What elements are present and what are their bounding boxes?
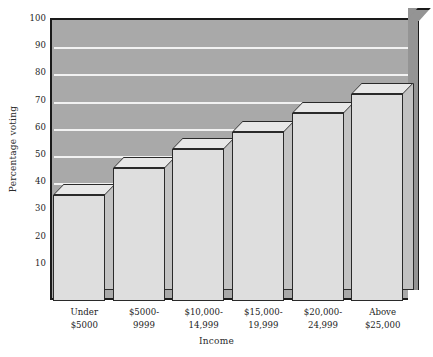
bar-top-4 [232, 121, 295, 132]
bar-face-5 [292, 113, 344, 301]
x-axis-label-line1: $20,000- [304, 307, 342, 317]
bar-face-4 [232, 132, 284, 301]
bar-top-2 [113, 157, 176, 168]
x-axis-title: Income [0, 336, 433, 346]
bar-face-3 [172, 149, 224, 301]
bar-face-2 [113, 168, 165, 301]
bar-chart: Percentage voting 102030405060708090100 … [0, 0, 433, 357]
x-axis-label-line2: $25,000 [346, 319, 420, 332]
bar-series [0, 0, 433, 357]
x-axis-label-line1: Under [71, 307, 98, 317]
bar-face-6 [351, 94, 403, 301]
bar-top-5 [292, 102, 355, 113]
x-axis-label-6: Above$25,000 [346, 306, 420, 331]
bar-top-1 [53, 184, 116, 195]
bar-top-3 [172, 138, 235, 149]
x-axis-label-line1: Above [369, 307, 396, 317]
x-axis-label-line1: $15,000- [244, 307, 282, 317]
bar-face-1 [53, 195, 105, 301]
x-axis-label-line1: $10,000- [184, 307, 222, 317]
bar-side-6 [403, 83, 414, 290]
bar-top-6 [351, 83, 414, 94]
x-axis-label-line1: $5000- [129, 307, 159, 317]
